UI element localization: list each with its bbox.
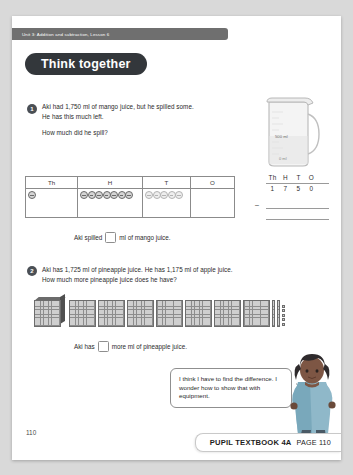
cm-subtrahend-o[interactable] (305, 201, 318, 208)
question-1-text: Aki had 1,750 ml of mango juice, but he … (42, 102, 252, 138)
speech-bubble-text: I think I have to find the difference. I… (179, 375, 277, 399)
counter-chip (80, 191, 88, 199)
pv-header-h: H (78, 177, 143, 189)
cm-subtrahend-h[interactable] (279, 201, 292, 208)
cm-header-t: T (292, 174, 305, 181)
footer-bar: PUPIL TEXTBOOK 4A PAGE 110 (195, 433, 341, 452)
question-1-line-2: He has this much left. (42, 112, 252, 122)
cube-front-face (34, 300, 61, 327)
counter-chip (160, 191, 168, 199)
hundred-flat (156, 300, 183, 327)
q2-answer-prefix: Aki has (74, 343, 95, 350)
cm-minuend-h: 7 (279, 185, 292, 192)
counter-chip (28, 191, 36, 199)
pv-counters-th (26, 189, 77, 200)
cm-header-th: Th (266, 174, 279, 181)
character-illustration (288, 352, 340, 438)
question-1-line-1: Aki had 1,750 ml of mango juice, but he … (42, 102, 252, 112)
measuring-jug-illustration: 500 ml 0 ml (259, 92, 321, 174)
speech-bubble: I think I have to find the difference. I… (170, 368, 292, 408)
measuring-jug-svg: 500 ml 0 ml (259, 92, 321, 170)
pv-counters-t (143, 189, 190, 200)
hundred-flat (214, 300, 241, 327)
counter-chip (145, 191, 153, 199)
q2-answer-box[interactable] (98, 341, 109, 352)
footer-page-label: PAGE 110 (297, 438, 332, 447)
q1-answer-suffix: ml of mango juice. (119, 234, 170, 241)
cm-header-h: H (279, 174, 292, 181)
cm-operator-slot (255, 174, 266, 181)
cm-operator: – (255, 201, 266, 208)
base-ten-blocks (34, 297, 285, 327)
thousand-cube (34, 297, 66, 327)
pv-cell-th (26, 189, 78, 218)
jug-label-lower: 0 ml (279, 156, 287, 161)
hundred-flat (185, 300, 212, 327)
counter-chip (110, 191, 118, 199)
pv-header-o: O (191, 177, 235, 189)
jug-label-upper: 500 ml (275, 134, 288, 139)
question-2-text: Aki has 1,725 ml of pineapple juice. He … (42, 265, 327, 284)
column-method-minuend: 1 7 5 0 (255, 185, 325, 192)
character-svg (288, 352, 340, 438)
column-method: Th H T O 1 7 5 0 – (255, 174, 325, 220)
pv-cell-h (78, 189, 143, 218)
running-head-bar: Unit 3: Addition and subtraction, Lesson… (12, 28, 228, 40)
one-cube (282, 314, 285, 317)
cm-answer-rule-bottom (266, 219, 329, 220)
pv-counters-o (191, 189, 234, 191)
cm-minuend-operator-slot (255, 185, 266, 192)
question-1-number: 1 (27, 104, 37, 114)
footer-book-title: PUPIL TEXTBOOK 4A (210, 438, 292, 447)
cm-header-o: O (305, 174, 318, 181)
q1-answer-prefix: Aki spilled (74, 234, 102, 241)
cm-minuend-o: 0 (305, 185, 318, 192)
running-head-text: Unit 3: Addition and subtraction, Lesson… (12, 32, 109, 37)
place-value-header-row: Th H T O (26, 177, 235, 189)
hundred-flat (69, 300, 96, 327)
cm-minuend-t: 5 (292, 185, 305, 192)
cm-subtrahend-t[interactable] (292, 201, 305, 208)
pv-counters-h (78, 189, 142, 200)
pv-header-th: Th (26, 177, 78, 189)
q1-answer-box[interactable] (105, 232, 116, 243)
cm-subtrahend-th[interactable] (266, 201, 279, 208)
question-2-line-1: Aki has 1,725 ml of pineapple juice. He … (42, 265, 327, 275)
one-cube (282, 323, 285, 326)
hundred-flat (98, 300, 125, 327)
question-2-line-2: How much more pineapple juice does he ha… (42, 275, 327, 285)
question-1-answer-line: Aki spilled ml of mango juice. (74, 232, 170, 243)
cm-minuend-th: 1 (266, 185, 279, 192)
place-value-counter-row (26, 189, 235, 218)
counter-chip (125, 191, 133, 199)
section-title-pill: Think together (25, 53, 147, 75)
one-cube (282, 318, 285, 321)
hundred-flat (243, 300, 270, 327)
counter-chip (175, 191, 183, 199)
question-2-number: 2 (27, 266, 37, 276)
question-1-line-3: How much did he spill? (42, 128, 252, 138)
ten-rod (272, 300, 275, 327)
one-cubes-stack (282, 305, 285, 327)
ten-rod (277, 300, 280, 327)
place-value-table: Th H T O (25, 176, 235, 218)
pv-cell-t (143, 189, 191, 218)
one-cube (282, 305, 285, 308)
hundred-flat (127, 300, 154, 327)
cm-header-rule (266, 183, 329, 184)
question-2-answer-line: Aki has more ml of pineapple juice. (74, 341, 187, 352)
pv-header-t: T (143, 177, 191, 189)
one-cube (282, 309, 285, 312)
section-title-text: Think together (41, 57, 131, 71)
counter-chip (95, 191, 103, 199)
textbook-page: Unit 3: Addition and subtraction, Lesson… (12, 16, 341, 460)
column-method-subtrahend-row[interactable]: – (255, 201, 325, 208)
folio-number: 110 (26, 429, 36, 436)
pv-cell-o (191, 189, 235, 218)
q2-answer-suffix: more ml of pineapple juice. (112, 343, 187, 350)
column-method-headers: Th H T O (255, 174, 325, 181)
